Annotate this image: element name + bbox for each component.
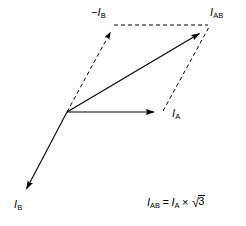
equation-radicand: 3: [198, 195, 205, 207]
phasor-diagram-figure: −IB IAB IA IB IAB=IA×√3: [0, 0, 246, 226]
vector-diagram-canvas: [0, 0, 246, 226]
label-ib-subscript: B: [17, 203, 22, 212]
label-ib: IB: [14, 199, 22, 210]
label-iab-subscript: AB: [213, 11, 223, 20]
equation-iab: IAB=IA×√3: [147, 195, 205, 208]
label-ia: IA: [172, 108, 180, 119]
label-negative-ib: −IB: [91, 7, 106, 18]
vector-iab-line: [67, 34, 200, 113]
vector-neg-ib-line: [67, 32, 111, 112]
label-iab: IAB: [210, 7, 223, 18]
label-negative-ib-subscript: B: [101, 11, 106, 20]
equation-lhs-subscript: AB: [150, 201, 160, 210]
equation-rhs-subscript: A: [175, 201, 180, 210]
equation-times-sign: ×: [180, 196, 191, 208]
vector-ib-line: [27, 112, 68, 189]
parallelogram-right-line: [163, 28, 209, 111]
label-ia-subscript: A: [175, 112, 180, 121]
equation-square-root: √3: [191, 195, 205, 208]
equation-equals-sign: =: [160, 196, 171, 208]
